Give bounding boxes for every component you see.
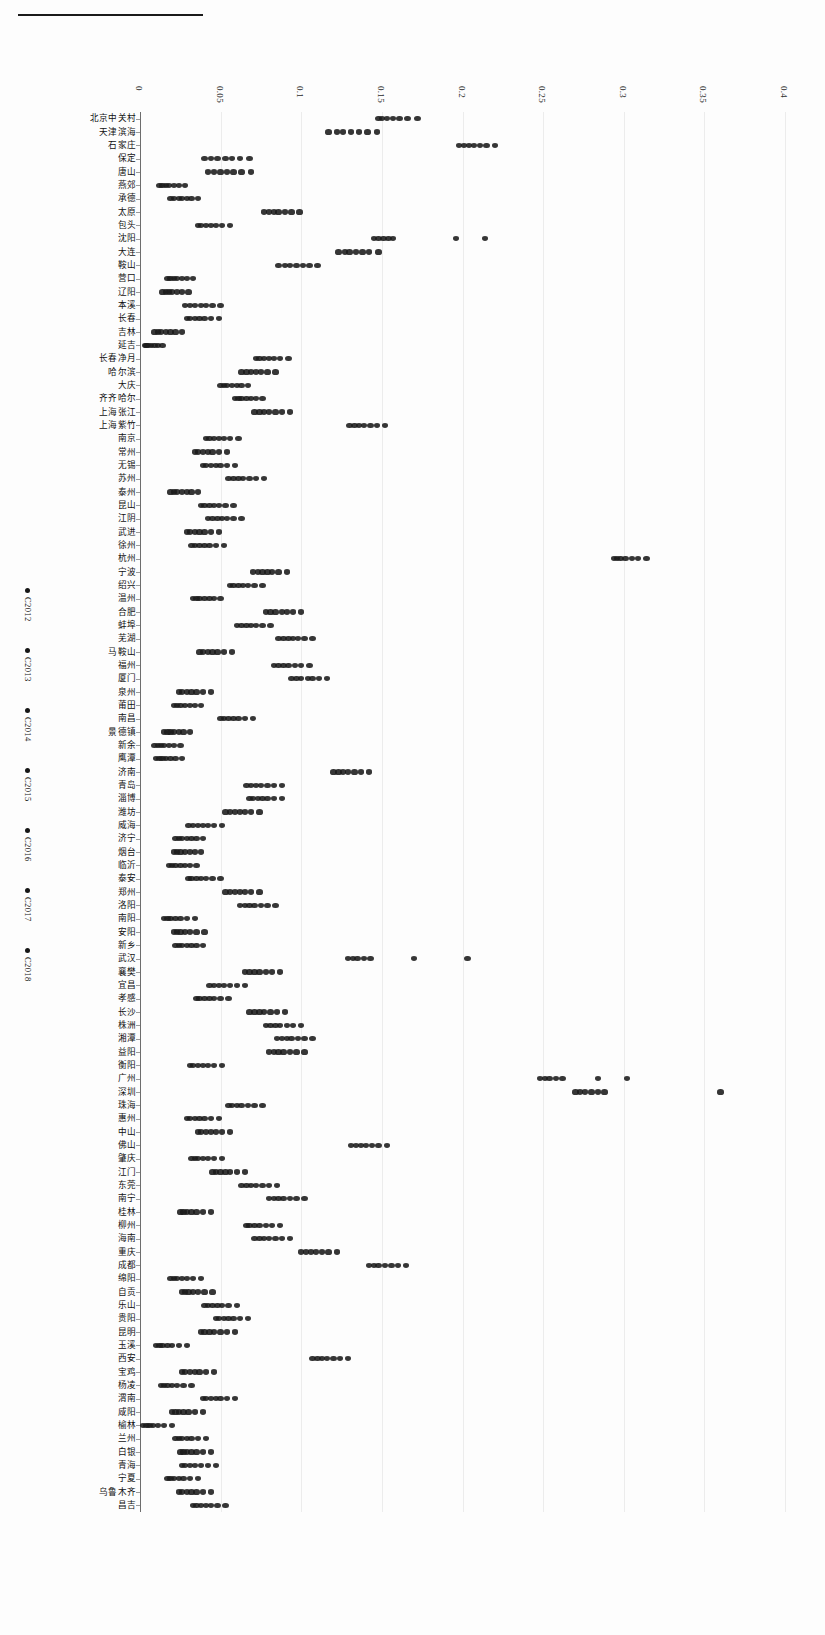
data-point bbox=[221, 983, 227, 988]
category-label: 石家庄 bbox=[108, 141, 136, 150]
legend-marker-icon bbox=[25, 588, 30, 593]
data-point bbox=[295, 636, 301, 641]
data-point bbox=[203, 1369, 209, 1374]
data-point bbox=[213, 1463, 219, 1468]
data-point bbox=[453, 236, 459, 241]
data-point bbox=[271, 356, 277, 361]
legend-item[interactable]: C2013 bbox=[23, 648, 34, 682]
data-point bbox=[340, 129, 346, 134]
category-label: 承德 bbox=[118, 194, 136, 203]
category-label: 西安 bbox=[118, 1354, 136, 1363]
data-point bbox=[245, 583, 251, 588]
legend-item[interactable]: C2014 bbox=[23, 708, 34, 742]
legend-item[interactable]: C2017 bbox=[23, 888, 34, 922]
legend-label: C2017 bbox=[23, 897, 33, 922]
category-label: 白银 bbox=[118, 1448, 136, 1457]
category-label: 宁波 bbox=[118, 568, 136, 577]
category-label: 徐州 bbox=[118, 541, 136, 550]
data-point bbox=[367, 423, 373, 428]
data-point bbox=[293, 1196, 299, 1201]
category-label: 衡阳 bbox=[118, 1061, 136, 1070]
data-point bbox=[190, 1276, 196, 1281]
category-label: 燕郊 bbox=[118, 181, 136, 190]
data-point bbox=[201, 529, 207, 534]
data-point bbox=[277, 969, 283, 974]
data-point bbox=[180, 1383, 186, 1388]
data-point bbox=[217, 996, 223, 1001]
category-label: 乌鲁木齐 bbox=[99, 1488, 136, 1497]
data-point bbox=[216, 449, 222, 454]
data-point bbox=[193, 1449, 199, 1454]
category-label: 安阳 bbox=[118, 928, 136, 937]
data-point bbox=[224, 516, 230, 521]
legend-label: C2016 bbox=[23, 837, 33, 862]
data-point bbox=[238, 169, 244, 174]
data-point bbox=[301, 1036, 307, 1041]
legend-item[interactable]: C2015 bbox=[23, 768, 34, 802]
data-point bbox=[246, 476, 252, 481]
data-point bbox=[217, 303, 223, 308]
data-point bbox=[184, 1276, 190, 1281]
data-point bbox=[203, 303, 209, 308]
data-point bbox=[232, 463, 238, 468]
legend-item[interactable]: C2012 bbox=[23, 588, 34, 622]
data-point bbox=[245, 383, 251, 388]
data-point bbox=[629, 556, 635, 561]
data-point bbox=[193, 943, 199, 948]
data-point bbox=[272, 1236, 278, 1241]
legend: C2012C2013C2014C2015C2016C2017C2018 bbox=[28, 588, 88, 1008]
data-point bbox=[177, 916, 183, 921]
category-label: 江门 bbox=[118, 1168, 136, 1177]
data-point bbox=[279, 783, 285, 788]
category-label: 辽阳 bbox=[118, 288, 136, 297]
category-label: 苏州 bbox=[118, 474, 136, 483]
legend-item[interactable]: C2016 bbox=[23, 828, 34, 862]
data-point bbox=[227, 1169, 233, 1174]
data-point bbox=[256, 969, 262, 974]
category-label: 新乡 bbox=[118, 941, 136, 950]
data-point bbox=[277, 1223, 283, 1228]
data-point bbox=[248, 809, 254, 814]
data-point bbox=[176, 183, 182, 188]
data-point bbox=[209, 1289, 215, 1294]
category-label: 海南 bbox=[118, 1234, 136, 1243]
data-point bbox=[284, 1023, 290, 1028]
data-point bbox=[182, 183, 188, 188]
data-point bbox=[330, 1356, 336, 1361]
data-point bbox=[200, 689, 206, 694]
data-point bbox=[195, 196, 201, 201]
data-point bbox=[230, 516, 236, 521]
data-point bbox=[205, 169, 211, 174]
data-point bbox=[251, 1103, 257, 1108]
data-point bbox=[196, 1369, 202, 1374]
data-point bbox=[319, 1249, 325, 1254]
category-label: 东莞 bbox=[118, 1181, 136, 1190]
data-point bbox=[275, 569, 281, 574]
data-point bbox=[335, 249, 341, 254]
data-point bbox=[259, 1103, 265, 1108]
data-point bbox=[235, 716, 241, 721]
data-point bbox=[272, 609, 278, 614]
data-point bbox=[274, 1183, 280, 1188]
data-point bbox=[208, 689, 214, 694]
data-point bbox=[230, 1316, 236, 1321]
data-point bbox=[206, 543, 212, 548]
legend-item[interactable]: C2018 bbox=[23, 948, 34, 982]
data-point bbox=[192, 916, 198, 921]
category-label: 泰安 bbox=[118, 874, 136, 883]
category-label: 温州 bbox=[118, 594, 136, 603]
data-point bbox=[354, 956, 360, 961]
data-point bbox=[595, 1076, 601, 1081]
data-point bbox=[287, 1236, 293, 1241]
data-point bbox=[187, 929, 193, 934]
data-point bbox=[384, 116, 390, 121]
data-point bbox=[195, 1436, 201, 1441]
data-point bbox=[275, 263, 281, 268]
data-point bbox=[201, 316, 207, 321]
category-label: 绵阳 bbox=[118, 1274, 136, 1283]
data-point bbox=[258, 903, 264, 908]
category-label: 太原 bbox=[118, 208, 136, 217]
category-label: 广州 bbox=[118, 1074, 136, 1083]
category-label: 中山 bbox=[118, 1128, 136, 1137]
data-point bbox=[193, 863, 199, 868]
